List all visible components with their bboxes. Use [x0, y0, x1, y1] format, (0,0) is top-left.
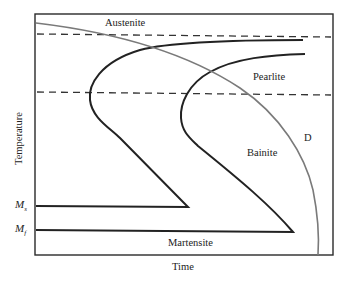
- x-axis-label: Time: [172, 262, 194, 273]
- martensite-label: Martensite: [168, 238, 213, 249]
- ms-base: M: [15, 198, 24, 210]
- cooling-curve-d-label: D: [304, 133, 312, 144]
- mf-label: Mf: [15, 222, 26, 237]
- mf-base: M: [15, 222, 24, 234]
- ms-sub: s: [24, 205, 27, 213]
- lower-dashed-line: [37, 92, 331, 95]
- y-axis-label: Temperature: [13, 112, 24, 165]
- upper-dashed-line: [37, 34, 331, 37]
- transformation-start-curve: [36, 40, 303, 207]
- ms-label: Ms: [15, 198, 27, 213]
- pearlite-label: Pearlite: [253, 72, 285, 83]
- cooling-curve-d: [36, 23, 318, 255]
- mf-sub: f: [24, 229, 26, 237]
- austenite-label: Austenite: [105, 18, 145, 29]
- bainite-label: Bainite: [247, 148, 277, 159]
